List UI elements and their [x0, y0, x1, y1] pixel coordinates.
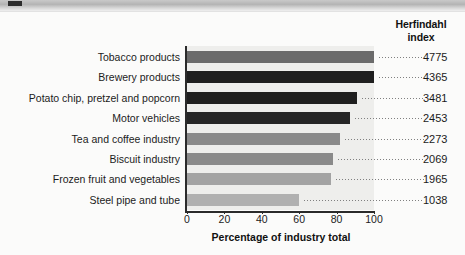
- category-label: Frozen fruit and vegetables: [0, 169, 180, 189]
- bar: [187, 92, 357, 104]
- herfindahl-index-value: 3481: [423, 88, 457, 108]
- bar: [187, 133, 340, 145]
- category-label: Tobacco products: [0, 47, 180, 67]
- bar-row: Potato chip, pretzel and popcorn3481: [0, 88, 465, 108]
- x-tick-label: 40: [247, 213, 277, 225]
- bar: [187, 51, 374, 63]
- dotted-leader-line: [354, 117, 424, 119]
- bar-row: Biscuit industry2069: [0, 149, 465, 169]
- herfindahl-index-value: 2273: [423, 129, 457, 149]
- dotted-leader-line: [344, 138, 424, 140]
- bar: [187, 71, 374, 83]
- bar: [187, 194, 299, 206]
- x-tick-label: 60: [284, 213, 314, 225]
- bar: [187, 153, 333, 165]
- bar-row: Frozen fruit and vegetables1965: [0, 169, 465, 189]
- bar-row: Tea and coffee industry2273: [0, 129, 465, 149]
- bar: [187, 173, 331, 185]
- herfindahl-index-value: 2453: [423, 108, 457, 128]
- dotted-leader-line: [361, 97, 424, 99]
- dotted-leader-line: [335, 178, 424, 180]
- dotted-leader-line: [378, 56, 424, 58]
- page-scan-band: [0, 0, 465, 11]
- chart-figure: Herfindahl index Tobacco products4775Bre…: [0, 0, 465, 255]
- bar: [187, 112, 350, 124]
- category-label: Steel pipe and tube: [0, 190, 180, 210]
- bar-row: Steel pipe and tube1038: [0, 190, 465, 210]
- herfindahl-index-value: 4775: [423, 47, 457, 67]
- x-tick-label: 0: [172, 213, 202, 225]
- category-label: Potato chip, pretzel and popcorn: [0, 88, 180, 108]
- scan-band-divider: [0, 11, 465, 12]
- bar-row: Motor vehicles2453: [0, 108, 465, 128]
- herfindahl-index-value: 2069: [423, 149, 457, 169]
- herfindahl-index-value: 1038: [423, 190, 457, 210]
- dotted-leader-line: [303, 199, 424, 201]
- x-axis-title: Percentage of industry total: [186, 231, 376, 243]
- index-header-line1: Herfindahl: [384, 18, 458, 31]
- herfindahl-index-header: Herfindahl index: [384, 18, 458, 44]
- dotted-leader-line: [378, 76, 424, 78]
- bar-row: Tobacco products4775: [0, 47, 465, 67]
- category-label: Tea and coffee industry: [0, 129, 180, 149]
- herfindahl-index-value: 4365: [423, 67, 457, 87]
- scan-artifact-mark: [8, 1, 22, 6]
- herfindahl-index-value: 1965: [423, 169, 457, 189]
- x-tick-label: 80: [322, 213, 352, 225]
- dotted-leader-line: [337, 158, 424, 160]
- category-label: Motor vehicles: [0, 108, 180, 128]
- x-tick-label: 100: [359, 213, 389, 225]
- category-label: Brewery products: [0, 67, 180, 87]
- category-label: Biscuit industry: [0, 149, 180, 169]
- bar-row: Brewery products4365: [0, 67, 465, 87]
- index-header-line2: index: [384, 31, 458, 44]
- x-tick-label: 20: [209, 213, 239, 225]
